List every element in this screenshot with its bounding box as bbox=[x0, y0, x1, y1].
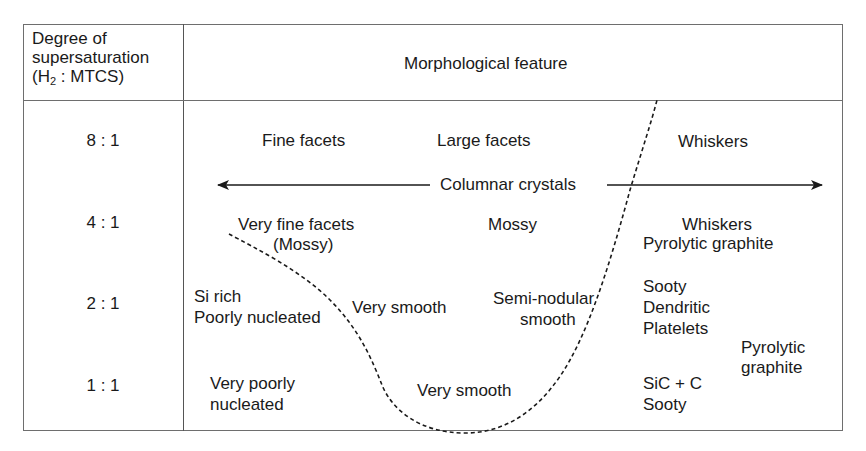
diagram-overlay bbox=[0, 0, 866, 451]
dashed-boundary-curve bbox=[229, 100, 657, 433]
